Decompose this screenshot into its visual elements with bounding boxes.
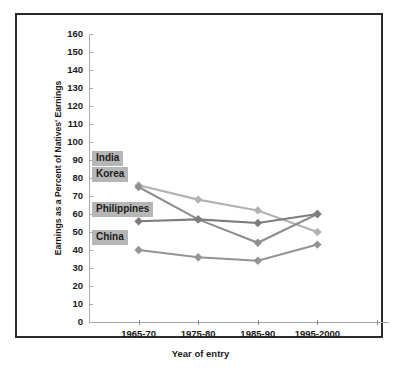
data-point-china-3 <box>313 240 321 248</box>
data-point-korea-2 <box>254 239 262 247</box>
data-point-philippines-0 <box>134 217 142 225</box>
y-tick-label: 50 <box>47 227 83 237</box>
data-point-china-0 <box>134 246 142 254</box>
y-tick-label: 40 <box>47 245 83 255</box>
data-point-india-3 <box>313 228 321 236</box>
series-line-korea <box>139 187 318 243</box>
y-tick-label: 140 <box>47 65 83 75</box>
y-tick-label: 80 <box>47 173 83 183</box>
series-line-china <box>139 245 318 261</box>
series-label-philippines: Philippines <box>92 202 153 217</box>
y-tick-label: 110 <box>47 119 83 129</box>
data-point-india-1 <box>194 195 202 203</box>
series-label-china: China <box>92 230 128 245</box>
y-axis-label-container: Earnings as a Percent of Natives' Earnin… <box>39 15 53 323</box>
y-tick-label: 20 <box>47 281 83 291</box>
y-tick-label: 60 <box>47 209 83 219</box>
chart-screenshot: Earnings as a Percent of Natives' Earnin… <box>0 0 401 372</box>
y-tick-label: 70 <box>47 191 83 201</box>
data-point-philippines-2 <box>254 219 262 227</box>
data-point-india-2 <box>254 206 262 214</box>
y-tick-label: 100 <box>47 137 83 147</box>
plot-area <box>89 35 387 323</box>
y-tick-label: 130 <box>47 83 83 93</box>
series-label-india: India <box>92 151 123 166</box>
y-tick-label: 120 <box>47 101 83 111</box>
series-label-korea: Korea <box>92 167 128 182</box>
series-line-india <box>139 185 318 232</box>
x-tick-label: 1995-2000 <box>289 328 345 339</box>
chart-frame: Earnings as a Percent of Natives' Earnin… <box>15 13 383 338</box>
y-tick-label: 160 <box>47 29 83 39</box>
x-tick-label: 1965-70 <box>111 328 167 339</box>
y-tick-label: 90 <box>47 155 83 165</box>
x-tick-label: 1975-80 <box>170 328 226 339</box>
series-lines <box>89 35 387 323</box>
data-point-philippines-1 <box>194 215 202 223</box>
y-tick-label: 150 <box>47 47 83 57</box>
y-tick-label: 10 <box>47 299 83 309</box>
y-tick-label: 30 <box>47 263 83 273</box>
x-tick-label: 1985-90 <box>230 328 286 339</box>
data-point-china-2 <box>254 257 262 265</box>
x-axis-title: Year of entry <box>0 348 401 359</box>
data-point-philippines-3 <box>313 210 321 218</box>
data-point-china-1 <box>194 253 202 261</box>
y-tick-label: 0 <box>47 317 83 327</box>
